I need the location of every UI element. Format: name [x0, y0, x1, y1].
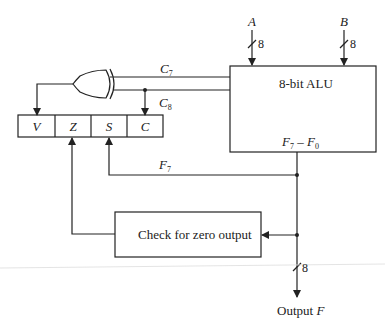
overflow-line	[37, 84, 73, 115]
input-b-width: 8	[350, 38, 356, 50]
flag-s: S	[91, 116, 127, 137]
faint-rule	[0, 264, 385, 268]
output-label: Output F	[277, 304, 324, 317]
output-width: 8	[302, 262, 308, 274]
input-a-label: A	[248, 15, 256, 28]
xor-gate	[73, 70, 110, 98]
input-b-label: B	[340, 15, 348, 28]
alu-title: 8-bit ALU	[279, 77, 333, 90]
alu-output-label: F7 – F0	[282, 135, 319, 151]
zero-check-label: Check for zero output	[138, 228, 252, 241]
flag-c: C	[127, 116, 163, 137]
sign-line	[109, 138, 297, 175]
flag-z: Z	[55, 116, 91, 137]
input-a-width: 8	[258, 38, 264, 50]
c8-label: C8	[159, 96, 172, 112]
c7-label: C7	[160, 62, 173, 78]
f7-label: F7	[159, 158, 171, 174]
diagram-canvas	[0, 0, 385, 324]
flag-v: V	[18, 116, 55, 137]
